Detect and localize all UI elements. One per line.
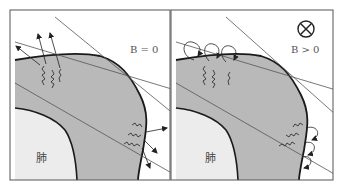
panel-left: B = 0 肺 <box>10 10 175 180</box>
magnetic-field-dose-diagram: B = 0 肺 <box>0 0 342 189</box>
panel-right: B > 0 肺 <box>171 10 336 180</box>
lung-label-right: 肺 <box>205 152 216 165</box>
field-label-right: B > 0 <box>291 44 319 55</box>
field-label-left: B = 0 <box>130 44 158 55</box>
lung-label-left: 肺 <box>36 152 47 165</box>
